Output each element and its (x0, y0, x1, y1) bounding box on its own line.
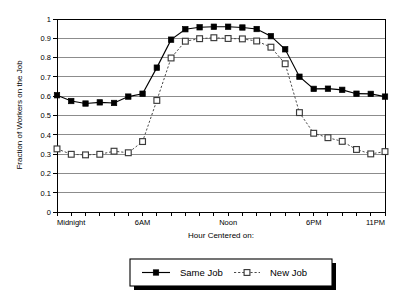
x-tick-label-1: 6AM (135, 218, 150, 227)
marker-1-9 (182, 38, 188, 44)
y-tick-label-5: 0.5 (41, 111, 51, 120)
y-tick-label-2: 0.2 (41, 169, 51, 178)
marker-1-4 (111, 148, 117, 154)
marker-0-14 (254, 26, 259, 31)
marker-0-16 (282, 47, 287, 52)
marker-0-23 (382, 94, 387, 99)
marker-0-1 (69, 98, 74, 103)
marker-0-8 (168, 37, 173, 42)
marker-1-0 (54, 146, 60, 152)
marker-1-13 (239, 36, 245, 42)
marker-0-20 (340, 87, 345, 92)
marker-1-17 (297, 110, 303, 116)
marker-0-18 (311, 86, 316, 91)
y-tick-label-10: 1 (47, 15, 51, 24)
y-axis-ticks: 00.10.20.30.40.50.60.70.80.91 (41, 15, 57, 217)
marker-1-10 (197, 36, 203, 42)
marker-0-3 (97, 100, 102, 105)
series-same-job (54, 24, 387, 106)
x-tick-label-0: Midnight (57, 218, 86, 227)
marker-1-8 (168, 55, 174, 61)
y-tick-label-8: 0.8 (41, 53, 51, 62)
marker-1-18 (311, 130, 317, 136)
marker-0-13 (240, 25, 245, 30)
y-tick-label-7: 0.7 (41, 73, 51, 82)
y-tick-label-1: 0.1 (41, 189, 51, 198)
line-chart: 00.10.20.30.40.50.60.70.80.91 Midnight6A… (0, 0, 416, 300)
gridlines (57, 19, 385, 193)
marker-0-0 (54, 93, 59, 98)
x-tick-label-3: 6PM (306, 218, 321, 227)
chart-legend[interactable]: Same JobNew Job (130, 259, 336, 290)
marker-0-22 (368, 91, 373, 96)
marker-0-9 (183, 27, 188, 32)
x-axis-ticks: Midnight6AMNoon6PM11PM (57, 212, 385, 227)
marker-1-15 (268, 44, 274, 50)
y-axis-title: Fraction of Workers on the Job (15, 60, 24, 170)
marker-1-19 (325, 135, 331, 141)
marker-0-12 (225, 24, 230, 29)
marker-1-12 (225, 36, 231, 42)
x-tick-label-2: Noon (219, 218, 237, 227)
chart-figure: 00.10.20.30.40.50.60.70.80.91 Midnight6A… (0, 0, 416, 300)
y-tick-label-6: 0.6 (41, 92, 51, 101)
marker-0-19 (325, 86, 330, 91)
marker-1-6 (140, 139, 146, 145)
marker-1-23 (382, 149, 388, 155)
marker-1-1 (68, 151, 74, 157)
marker-0-5 (126, 94, 131, 99)
marker-1-3 (97, 151, 103, 157)
marker-0-11 (211, 24, 216, 29)
marker-0-6 (140, 91, 145, 96)
marker-1-22 (368, 151, 374, 157)
data-series (54, 24, 388, 158)
marker-0-15 (268, 33, 273, 38)
marker-0-7 (154, 65, 159, 70)
y-tick-label-4: 0.4 (41, 131, 51, 140)
marker-0-17 (297, 74, 302, 79)
x-axis-title: Hour Centered on: (188, 231, 254, 240)
y-tick-label-9: 0.9 (41, 34, 51, 43)
legend-marker-same-job (153, 270, 158, 275)
y-tick-label-3: 0.3 (41, 150, 51, 159)
marker-1-2 (83, 152, 89, 158)
marker-1-14 (254, 38, 260, 44)
marker-1-5 (125, 150, 131, 156)
marker-0-10 (197, 25, 202, 30)
marker-1-21 (354, 147, 360, 153)
marker-1-20 (339, 138, 345, 144)
marker-1-16 (282, 61, 288, 67)
x-tick-label-4: 11PM (366, 218, 385, 227)
y-tick-label-0: 0 (47, 208, 51, 217)
marker-1-7 (154, 98, 160, 104)
marker-0-2 (83, 101, 88, 106)
legend-marker-new-job (244, 270, 250, 276)
legend-label-new-job[interactable]: New Job (270, 267, 307, 278)
marker-1-11 (211, 35, 217, 41)
legend-label-same-job[interactable]: Same Job (180, 267, 223, 278)
marker-0-4 (111, 100, 116, 105)
marker-0-21 (354, 91, 359, 96)
